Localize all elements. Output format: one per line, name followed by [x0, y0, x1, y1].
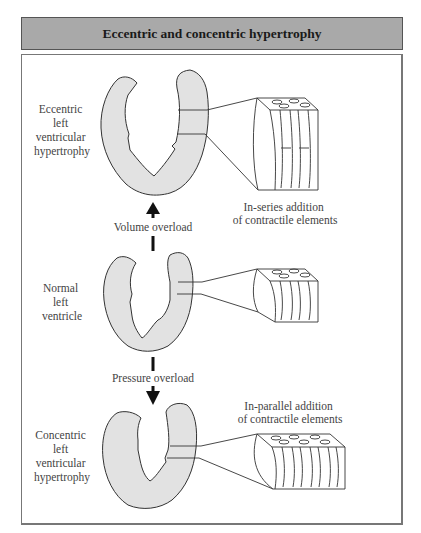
eccentric-ventricle [101, 70, 208, 195]
concentric-sarcomere-block [254, 434, 345, 489]
eccentric-label: Eccentric left ventricular hypertrophy [34, 103, 90, 158]
volume-overload-label: Volume overload [114, 221, 193, 233]
eccentric-zoom-lines [205, 98, 258, 190]
eccentric-caption: In-series addition of contractile elemen… [233, 201, 338, 226]
normal-zoom-lines [201, 269, 258, 312]
normal-sarcomere-block [253, 269, 318, 322]
arrow-up-stem [152, 236, 155, 251]
arrow-up-head [146, 202, 160, 214]
normal-label: Normal left ventricle [42, 282, 82, 322]
pressure-overload-label: Pressure overload [112, 372, 194, 384]
arrow-down-head [146, 391, 160, 405]
arrow-down-stem [152, 357, 155, 371]
eccentric-sarcomere-block [253, 98, 318, 190]
normal-ventricle [104, 253, 202, 352]
diagram-canvas: .tissue { fill: #e2e2e2; stroke: #333; s… [0, 0, 421, 533]
concentric-ventricle [103, 403, 201, 508]
concentric-label: Concentric left ventricular hypertrophy [34, 429, 90, 484]
concentric-caption: In-parallel addition of contractile elem… [238, 400, 343, 425]
